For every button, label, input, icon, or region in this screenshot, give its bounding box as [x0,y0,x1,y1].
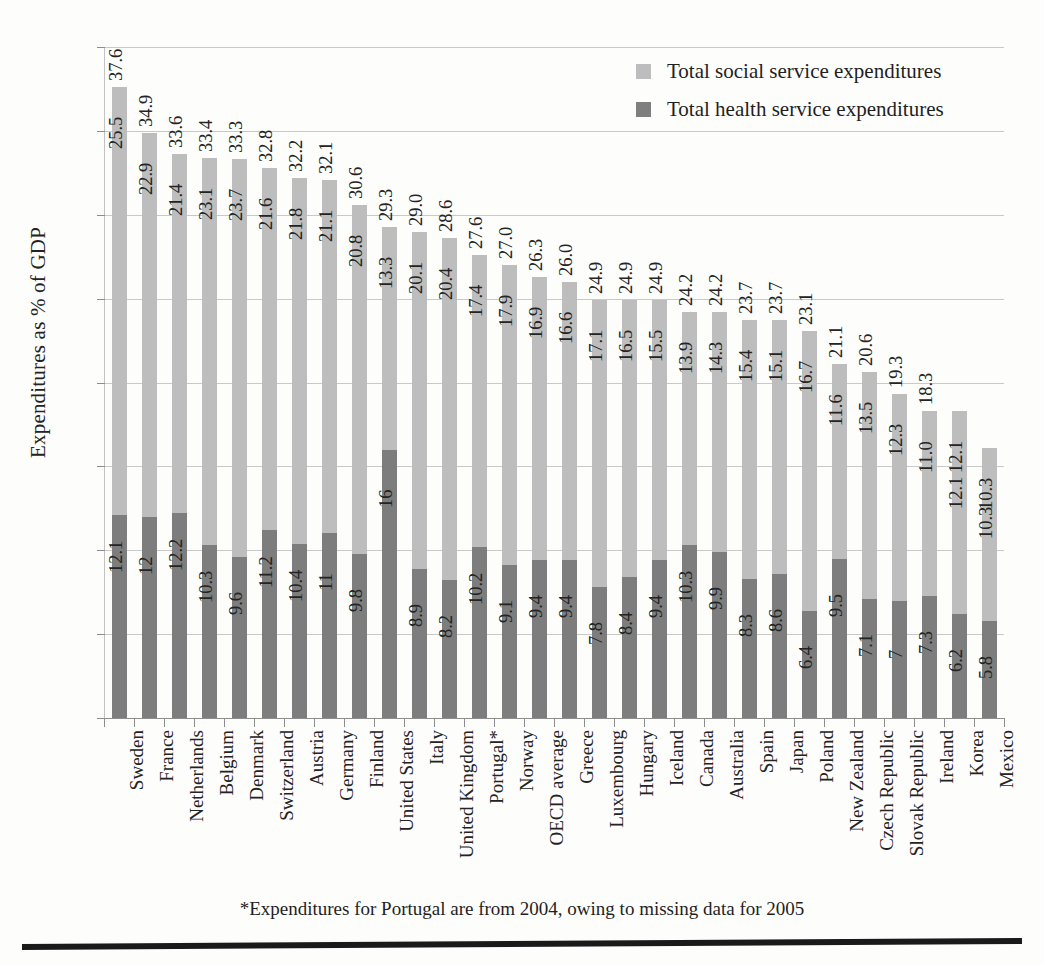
bar-segment-social[interactable] [922,411,937,596]
bar-social-value-label: 20.8 [346,234,367,266]
x-tick-mark [524,718,525,727]
bar-segment-health[interactable] [742,579,757,718]
bar-column[interactable] [502,265,517,718]
bar-column[interactable] [232,159,247,718]
bar-segment-health[interactable] [142,517,157,718]
legend-item-social: Total social service expenditures [636,52,986,90]
x-axis-label-sweden: Sweden [126,730,148,790]
y-axis-title: Expenditures as % of GDP [26,213,51,473]
x-axis-label-canada: Canada [696,730,718,787]
bar-column[interactable] [592,300,607,718]
x-axis-label-japan: Japan [786,730,808,773]
bar-social-value-label: 16.9 [526,306,547,338]
bar-column[interactable] [382,227,397,719]
bar-column[interactable] [442,238,457,718]
bar-total-label: 34.9 [136,94,157,126]
bar-total-label: 23.7 [766,282,787,314]
legend-swatch-social-icon [636,64,651,79]
bar-segment-health[interactable] [352,554,367,718]
bar-total-label: 32.2 [286,139,307,171]
bar-segment-social[interactable] [832,364,847,559]
x-axis-label-iceland: Iceland [666,730,688,786]
chart-footnote: *Expenditures for Portugal are from 2004… [0,898,1044,920]
x-tick-mark [314,718,315,727]
x-tick-mark [164,718,165,727]
legend-label-health: Total health service expenditures [667,97,944,122]
x-tick-mark [854,718,855,727]
bar-segment-health[interactable] [712,552,727,718]
bar-segment-health[interactable] [922,596,937,718]
x-axis-label-mexico: Mexico [996,730,1018,788]
bar-segment-health[interactable] [862,599,877,718]
bar-segment-health[interactable] [232,557,247,718]
x-tick-mark [434,718,435,727]
x-axis-label-slovak-republic: Slovak Republic [906,730,928,856]
x-tick-mark [704,718,705,727]
x-tick-mark [764,718,765,727]
x-axis-label-australia: Australia [726,730,748,800]
bar-social-value-label: 15.1 [766,350,787,382]
bar-total-label: 26.3 [526,238,547,270]
bar-segment-health[interactable] [442,580,457,718]
bar-social-value-label: 17.1 [586,330,607,362]
bar-health-value-label: 9.9 [706,587,727,610]
bar-column[interactable] [472,255,487,718]
x-axis-label-greece: Greece [576,730,598,784]
bar-social-value-label: 14.3 [706,342,727,374]
bar-total-label: 19.3 [886,356,907,388]
bar-social-value-label: 22.9 [136,162,157,194]
bar-segment-health[interactable] [622,577,637,718]
x-axis-label-finland: Finland [366,730,388,788]
bar-segment-health[interactable] [412,569,427,718]
bar-segment-health[interactable] [322,533,337,718]
bar-column[interactable] [412,232,427,718]
bar-column[interactable] [292,178,307,718]
bar-column[interactable] [622,300,637,718]
bar-social-value-label: 13.3 [376,256,397,288]
x-axis-label-portugal: Portugal* [486,730,508,804]
bar-segment-health[interactable] [502,565,517,718]
bar-segment-social[interactable] [112,87,127,515]
bar-health-value-label: 9.6 [226,592,247,615]
legend-swatch-health-icon [636,102,651,117]
bar-column[interactable] [262,168,277,718]
x-axis-label-united-kingdom: United Kingdom [456,730,478,858]
bar-health-value-label: 9.8 [346,588,367,611]
bar-segment-health[interactable] [652,560,667,718]
x-tick-mark [344,718,345,727]
bar-series-container: 37.625.512.134.922.91233.621.412.233.423… [104,47,1004,718]
bar-column[interactable] [142,133,157,718]
bar-social-value-label: 16.6 [556,311,577,343]
bar-social-value-label: 20.4 [436,268,457,300]
bar-column[interactable] [202,158,217,718]
bar-column[interactable] [652,300,667,718]
bar-column[interactable] [952,515,967,718]
x-axis-label-italy: Italy [426,730,448,765]
bar-health-value-label: 10.3 [676,571,697,603]
bar-segment-health[interactable] [772,574,787,718]
bar-segment-health[interactable] [592,587,607,718]
bar-health-value-label: 8.6 [766,609,787,632]
bar-segment-health[interactable] [562,560,577,718]
x-tick-mark [254,718,255,727]
x-tick-mark [374,718,375,727]
x-tick-mark [794,718,795,727]
bar-total-label: 24.9 [646,262,667,294]
bar-segment-health[interactable] [832,559,847,718]
bar-column[interactable] [982,545,997,718]
bar-health-value-label: 11 [316,574,337,592]
bar-segment-health[interactable] [892,601,907,718]
x-tick-mark [944,718,945,727]
bar-segment-health[interactable] [532,560,547,718]
x-axis-label-belgium: Belgium [216,730,238,795]
bar-column[interactable] [532,277,547,718]
bar-column[interactable] [322,180,337,718]
bar-column[interactable] [352,205,367,718]
bar-social-value-label: 25.5 [106,117,127,149]
bar-column[interactable] [112,87,127,718]
x-axis-label-hungary: Hungary [636,730,658,796]
bar-column[interactable] [172,154,187,718]
bar-column[interactable] [562,282,577,718]
bar-social-value-label: 23.1 [196,187,217,219]
bar-health-value-label: 9.4 [556,595,577,618]
